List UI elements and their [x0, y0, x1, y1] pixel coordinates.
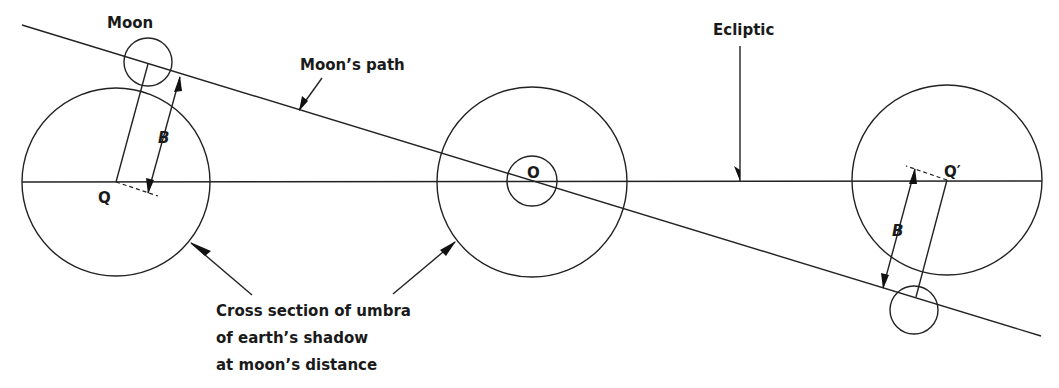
- label-moon: Moon: [107, 14, 153, 32]
- arrowhead-icon: [881, 273, 889, 289]
- moon-left: [124, 38, 172, 86]
- arrowhead-icon: [146, 178, 154, 194]
- qprime-to-moon-line: [916, 180, 947, 297]
- lunar-eclipse-diagram: Moon Moon’s path Ecliptic Q Q′ O B B Cro…: [0, 0, 1059, 388]
- arrowhead-icon: [440, 241, 456, 256]
- moon-right: [890, 286, 938, 334]
- label-b-right: B: [892, 222, 903, 240]
- label-b-left: B: [158, 129, 169, 147]
- label-q: Q: [98, 189, 111, 207]
- caption-line-1: Cross section of umbra: [216, 302, 411, 320]
- arrowhead-icon: [174, 76, 182, 92]
- arrowhead-icon: [909, 168, 917, 184]
- q-to-moon-line: [116, 64, 148, 182]
- label-moons-path: Moon’s path: [300, 56, 405, 74]
- label-o: O: [527, 164, 540, 182]
- caption-line-3: at moon’s distance: [216, 356, 377, 374]
- caption-line-2: of earth’s shadow: [216, 329, 368, 347]
- arrowhead-icon: [734, 166, 740, 181]
- label-q-prime: Q′: [944, 163, 961, 181]
- arrowhead-icon: [190, 242, 211, 256]
- label-ecliptic: Ecliptic: [713, 21, 774, 39]
